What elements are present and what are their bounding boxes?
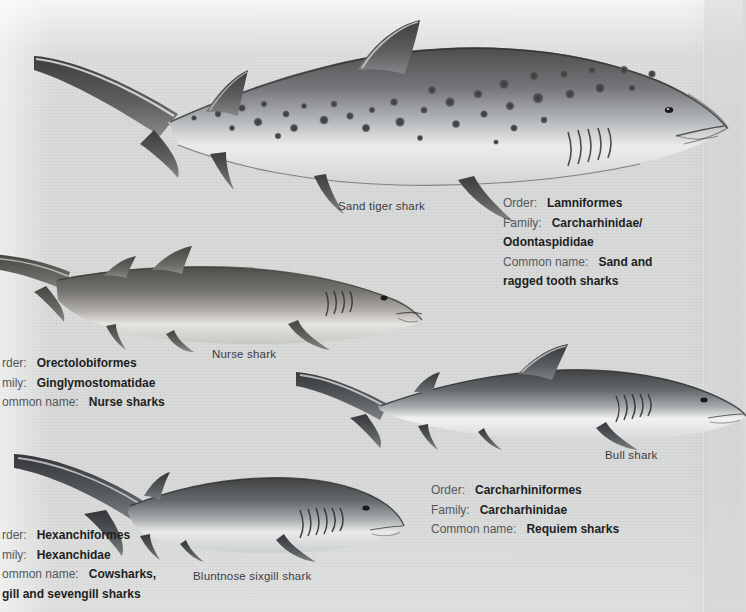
common-label: Common name: (503, 255, 595, 269)
taxon-block-hexanchiformes: rder: Hexanchiformes mily: Hexanchidae o… (2, 526, 156, 604)
anal-fin (418, 424, 438, 450)
common-value-2: ragged tooth sharks (503, 274, 618, 288)
taxon-common-row-cont: gill and sevengill sharks (2, 585, 156, 605)
eye (700, 398, 707, 403)
family-label: Family: (431, 503, 476, 517)
common-label: ommon name: (2, 567, 85, 581)
eye (381, 296, 388, 301)
caudal-fin-lower (350, 414, 381, 448)
taxon-family-row: mily: Hexanchidae (2, 546, 156, 566)
order-label: Order: (431, 483, 472, 497)
common-label: Common name: (431, 522, 523, 536)
family-label: mily: (2, 548, 33, 562)
taxon-block-orectolobiformes: rder: Orectolobiformes mily: Ginglymosto… (2, 354, 165, 413)
taxon-family-row-cont: Odontaspididae (503, 233, 652, 253)
family-value: Carcharhinidae (480, 503, 567, 517)
eye (362, 505, 369, 510)
order-value: Lamniformes (547, 196, 622, 210)
taxon-family-row: Family: Carcharhinidae (431, 501, 619, 521)
caption-sand-tiger-shark: Sand tiger shark (338, 200, 425, 212)
taxon-block-carcharhiniformes: Order: Carcharhiniformes Family: Carchar… (431, 481, 619, 540)
taxon-common-row: ommon name: Cowsharks, (2, 565, 156, 585)
common-value: Nurse sharks (89, 395, 165, 409)
family-label: Family: (503, 216, 548, 230)
taxon-order-row: rder: Orectolobiformes (2, 354, 165, 374)
family-value-2: Odontaspididae (503, 235, 594, 249)
caption-bull-shark: Bull shark (605, 449, 658, 461)
family-value: Carcharhinidae/ (552, 216, 643, 230)
caption-bluntnose-sixgill-shark: Bluntnose sixgill shark (193, 570, 311, 582)
family-value: Ginglymostomatidae (37, 376, 156, 390)
taxon-common-row: ommon name: Nurse sharks (2, 393, 165, 413)
caudal-fin-lower (140, 130, 179, 178)
order-value: Orectolobiformes (37, 356, 137, 370)
eye (665, 107, 673, 113)
caudal-fin-upper (296, 372, 388, 420)
order-value: Hexanchiformes (37, 528, 130, 542)
order-label: rder: (2, 356, 33, 370)
figure-nurse-shark (0, 246, 424, 352)
taxon-common-row-cont: ragged tooth sharks (503, 272, 652, 292)
figure-bull-shark (296, 344, 746, 450)
taxon-block-lamniformes: Order: Lamniformes Family: Carcharhinida… (503, 194, 652, 292)
shark-body (128, 478, 404, 553)
taxon-family-row: mily: Ginglymostomatidae (2, 374, 165, 394)
common-value: Cowsharks, (89, 567, 156, 581)
taxon-order-row: Order: Lamniformes (503, 194, 652, 214)
caption-nurse-shark: Nurse shark (212, 348, 276, 360)
taxon-common-row: Common name: Requiem sharks (431, 520, 619, 540)
common-label: ommon name: (2, 395, 85, 409)
caudal-fin-upper (14, 454, 142, 520)
shark-body (168, 47, 728, 184)
order-value: Carcharhiniformes (475, 483, 582, 497)
common-value: Sand and (598, 255, 652, 269)
common-value-2: gill and sevengill sharks (2, 587, 141, 601)
family-value: Hexanchidae (37, 548, 111, 562)
family-label: mily: (2, 376, 33, 390)
figure-sand-tiger-shark (28, 18, 728, 218)
caudal-fin-upper (34, 56, 178, 136)
common-value: Requiem sharks (526, 522, 619, 536)
order-label: rder: (2, 528, 33, 542)
order-label: Order: (503, 196, 544, 210)
taxon-order-row: rder: Hexanchiformes (2, 526, 156, 546)
taxon-family-row: Family: Carcharhinidae/ (503, 214, 652, 234)
taxon-order-row: Order: Carcharhiniformes (431, 481, 619, 501)
taxon-common-row: Common name: Sand and (503, 253, 652, 273)
